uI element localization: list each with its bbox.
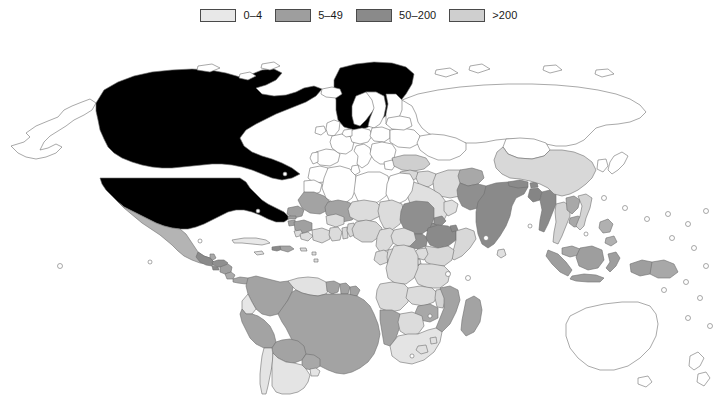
- island-marker: [686, 222, 691, 227]
- country-botswana[interactable]: [398, 312, 424, 336]
- island-marker: [670, 236, 675, 241]
- island-marker: [692, 246, 697, 251]
- country-korea[interactable]: [597, 159, 608, 172]
- legend-label-50-200: 50–200: [399, 9, 436, 21]
- island-marker: [602, 196, 607, 201]
- island-marker: [584, 232, 588, 236]
- country-tasmania[interactable]: [638, 376, 652, 387]
- legend-swatch-icon-50-200: [356, 9, 392, 22]
- country-indonesia-sulawesi[interactable]: [606, 252, 620, 272]
- island-marker: [58, 264, 63, 269]
- legend-entry-over-200[interactable]: >200: [449, 9, 517, 22]
- island-marker: [528, 224, 532, 228]
- country-angola[interactable]: [376, 282, 410, 312]
- country-papua-new-guinea[interactable]: [650, 260, 678, 278]
- country-philippines[interactable]: [599, 219, 617, 246]
- country-united-states[interactable]: [100, 178, 290, 229]
- country-ukraine[interactable]: [390, 128, 420, 148]
- island-marker: [686, 316, 691, 321]
- country-myanmar[interactable]: [539, 190, 556, 232]
- country-belarus-baltics[interactable]: [386, 116, 412, 130]
- country-turkey[interactable]: [392, 155, 430, 171]
- country-sri-lanka[interactable]: [497, 249, 506, 258]
- country-portugal[interactable]: [310, 152, 318, 164]
- arctic-island: [543, 65, 562, 73]
- country-japan[interactable]: [608, 152, 628, 174]
- island-marker: [623, 206, 628, 211]
- island-marker: [666, 212, 671, 217]
- legend-entry-50-200[interactable]: 50–200: [356, 9, 436, 22]
- country-liberia[interactable]: [300, 232, 313, 241]
- legend-label-5-49: 5–49: [318, 9, 343, 21]
- legend-label-over-200: >200: [492, 9, 517, 21]
- country-ivory-coast[interactable]: [312, 228, 330, 243]
- country-ghana[interactable]: [329, 227, 342, 241]
- country-chad[interactable]: [378, 200, 404, 230]
- country-lesser-antilles[interactable]: [312, 252, 318, 262]
- country-tanzania[interactable]: [414, 264, 450, 288]
- arctic-island: [261, 62, 280, 70]
- country-canada[interactable]: [96, 69, 322, 180]
- country-afghanistan[interactable]: [458, 168, 484, 186]
- island-marker: [684, 280, 689, 285]
- country-oman[interactable]: [444, 200, 458, 216]
- country-cuba[interactable]: [232, 238, 270, 245]
- island-marker: [662, 288, 667, 293]
- country-jamaica[interactable]: [254, 251, 264, 255]
- country-ireland[interactable]: [315, 126, 326, 135]
- legend-swatch-icon-0-4: [200, 9, 236, 22]
- map-legend: 0–4 5–49 50–200 >200: [0, 4, 718, 26]
- legend-entry-0-4[interactable]: 0–4: [200, 9, 262, 22]
- island-marker: [708, 324, 713, 329]
- arctic-island: [435, 68, 458, 77]
- arctic-island: [595, 69, 614, 77]
- country-niger[interactable]: [348, 200, 382, 221]
- country-united-kingdom[interactable]: [326, 120, 340, 136]
- island-marker: [704, 264, 709, 269]
- legend-swatch-icon-5-49: [275, 9, 311, 22]
- country-new-zealand[interactable]: [689, 352, 710, 386]
- country-swaziland[interactable]: [430, 337, 437, 344]
- country-dominican-republic[interactable]: [280, 246, 294, 252]
- map-page: 0–4 5–49 50–200 >200: [0, 0, 718, 396]
- island-marker: [704, 209, 709, 214]
- country-burkina-faso[interactable]: [326, 214, 344, 227]
- country-gambia[interactable]: [288, 216, 296, 219]
- island-marker: [698, 296, 703, 301]
- world-map-container: [0, 26, 718, 396]
- country-suriname[interactable]: [340, 283, 350, 294]
- country-indonesia-java[interactable]: [570, 274, 604, 282]
- country-guyana[interactable]: [326, 281, 340, 294]
- world-map-svg: [0, 26, 718, 396]
- island-marker: [148, 260, 152, 264]
- legend-swatch-icon-over-200: [449, 9, 485, 22]
- island-marker: [645, 217, 650, 222]
- island-marker: [198, 239, 202, 243]
- country-australia[interactable]: [566, 302, 658, 370]
- country-libya[interactable]: [354, 172, 390, 204]
- arctic-island: [469, 64, 490, 73]
- country-alaska[interactable]: [11, 99, 96, 159]
- country-puerto-rico[interactable]: [300, 248, 307, 251]
- country-chile[interactable]: [260, 348, 273, 394]
- country-zambia[interactable]: [406, 286, 438, 306]
- country-germany[interactable]: [350, 128, 372, 144]
- country-iceland[interactable]: [321, 87, 342, 98]
- legend-label-0-4: 0–4: [243, 9, 262, 21]
- country-italy[interactable]: [354, 144, 372, 168]
- country-algeria[interactable]: [322, 166, 356, 204]
- country-madagascar[interactable]: [461, 296, 482, 336]
- country-poland[interactable]: [370, 127, 390, 142]
- country-indonesia-borneo[interactable]: [576, 246, 604, 270]
- legend-entry-5-49[interactable]: 5–49: [275, 9, 343, 22]
- country-uruguay[interactable]: [310, 368, 320, 376]
- island-marker: [466, 276, 471, 281]
